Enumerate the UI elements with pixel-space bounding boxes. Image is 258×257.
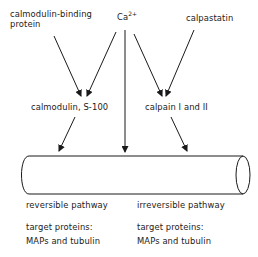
arrow-ca-to-calmodulin [87, 32, 116, 96]
left-targets: MAPs and tubulin [26, 236, 100, 246]
node-calmodulin-binding-protein: calmodulin-binding protein [10, 9, 92, 29]
node-calmodulin-s100: calmodulin, S-100 [31, 102, 108, 112]
microtubule-cylinder [22, 156, 251, 194]
diagram-canvas [0, 0, 258, 257]
node-label-line1: calmodulin-binding [10, 9, 92, 19]
left-pathway-title: reversible pathway [26, 200, 108, 210]
node-calpastatin: calpastatin [186, 13, 233, 23]
node-label-line2: protein [10, 19, 92, 29]
right-targets-heading: target proteins: [137, 222, 204, 232]
arrow-ca-to-calpain [134, 34, 162, 96]
arrow-calpain-to-microtubule [171, 117, 187, 151]
right-pathway-title: irreversible pathway [137, 200, 225, 210]
calcium-charge: 2+ [128, 10, 137, 17]
arrow-calmodulin-to-microtubule [59, 117, 75, 151]
arrow-cbp-to-calmodulin [54, 36, 81, 96]
arrow-calpastatin-to-calpain [166, 30, 194, 96]
calcium-base: Ca [117, 12, 128, 22]
left-targets-heading: target proteins: [26, 222, 93, 232]
right-targets: MAPs and tubulin [137, 236, 211, 246]
node-calpain: calpain I and II [145, 102, 208, 112]
node-calcium-ion: Ca2+ [117, 12, 137, 22]
